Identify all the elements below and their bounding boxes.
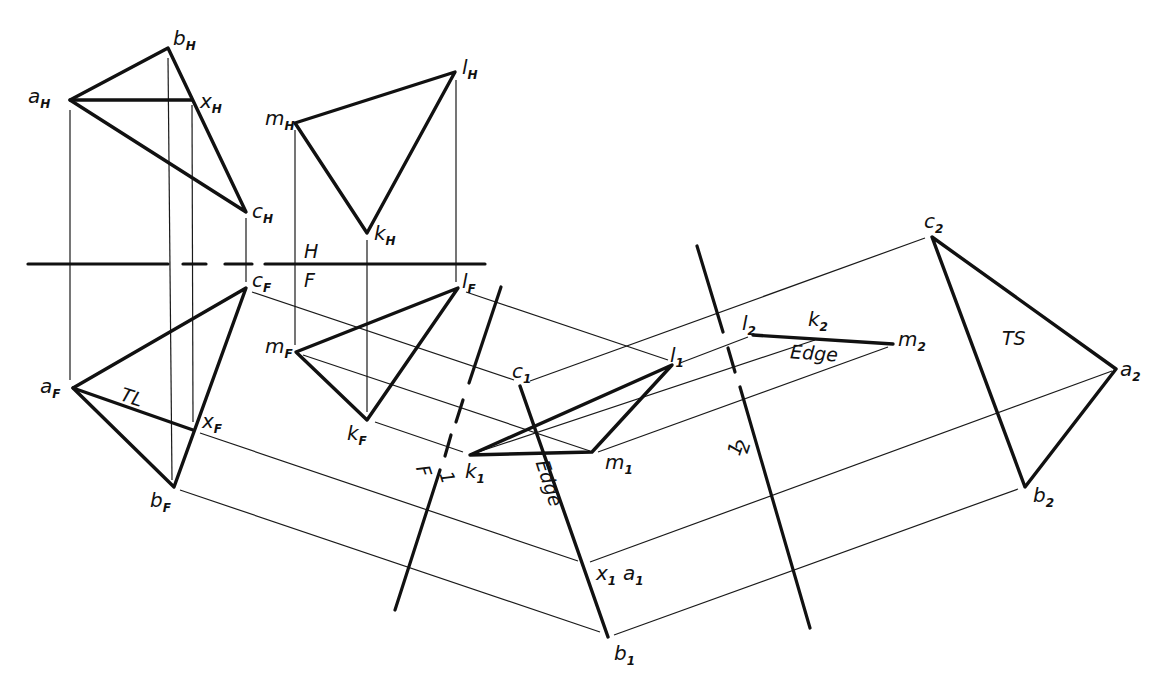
projector-b-hf [168, 58, 172, 480]
label-c-f: cF [252, 268, 272, 295]
label-x-1: x1 [595, 561, 616, 588]
label-x-h: xH [199, 89, 222, 116]
triangle-abc-h [70, 48, 246, 212]
label-k-h: kH [374, 221, 396, 248]
true-shape-note: TS [1002, 327, 1026, 349]
triangle-klm-1 [470, 365, 672, 455]
descriptive-geometry-drawing: aH bH xH cH mH lH kH H F cF aF xF bF TL … [0, 0, 1169, 693]
projector-b-f1 [180, 490, 600, 632]
label-m-1: m1 [605, 450, 633, 477]
label-m-2: m2 [898, 327, 926, 354]
label-l-1: l1 [670, 343, 684, 370]
label-x-f: xF [201, 409, 223, 436]
fold-label-f: F [304, 269, 316, 291]
label-a-f: aF [40, 374, 61, 401]
label-m-h: mH [265, 106, 295, 133]
triangle-abc-f [73, 288, 246, 487]
edge-note-klm-2: Edge [789, 340, 838, 365]
label-b-f: bF [150, 488, 172, 515]
projector-b-12 [614, 489, 1018, 635]
label-l-f: lF [462, 269, 477, 296]
projector-a-12 [590, 371, 1112, 562]
label-m-f: mF [265, 334, 293, 361]
label-b-h: bH [173, 26, 196, 53]
label-c-1: c1 [512, 359, 531, 386]
label-b-2: b2 [1033, 483, 1054, 510]
label-a-2: a2 [1120, 357, 1141, 384]
label-a-h: aH [28, 84, 50, 111]
label-k-2: k2 [808, 307, 828, 334]
fold-label-f1-f: F [412, 462, 437, 480]
triangle-klm-h [295, 72, 455, 233]
label-l-2: l2 [742, 311, 756, 338]
fold-label-h: H [304, 240, 318, 262]
label-l-h: lH [462, 55, 478, 82]
label-k-1: k1 [465, 459, 485, 486]
projector-l-12 [680, 337, 748, 363]
view-auxiliary-1 [470, 365, 672, 637]
label-c-2: c2 [924, 209, 943, 236]
triangle-klm-f [296, 288, 458, 420]
edge-note-abc-1: Edge [532, 457, 568, 509]
projector-c-12 [530, 238, 925, 381]
fold-line-12 [697, 246, 810, 628]
label-a-1: a1 [623, 561, 644, 588]
triangle-abc-2-true-shape [932, 237, 1116, 487]
label-c-h: cH [252, 199, 273, 226]
label-b-1: b1 [614, 641, 635, 668]
label-k-f: kF [347, 421, 368, 448]
